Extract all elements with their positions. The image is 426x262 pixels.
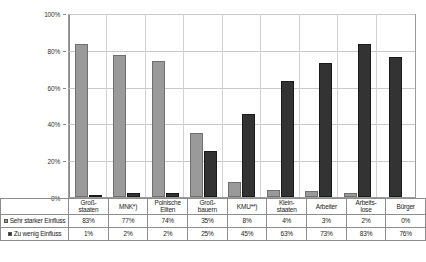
bar-series-1: [344, 193, 357, 197]
bar-series-2: [204, 151, 217, 197]
table-value-cell: 2%: [346, 214, 386, 227]
table-category-header: Klein-staaten: [267, 199, 307, 215]
bar-series-1: [113, 55, 126, 197]
bar-group: [146, 14, 184, 197]
y-axis-tick-mark: [63, 161, 66, 162]
table-corner-cell: [1, 199, 69, 215]
table-value-cell: 4%: [267, 214, 307, 227]
table-category-header: Arbeiter: [307, 199, 347, 215]
y-axis-tick-mark: [63, 51, 66, 52]
bar-group: [184, 14, 222, 197]
y-axis: 0%20%40%60%80%100%: [0, 0, 68, 198]
bar-group: [107, 14, 145, 197]
table-value-cell: 35%: [188, 214, 228, 227]
plot-area: [68, 14, 416, 198]
bar-series-2: [389, 57, 402, 197]
table-value-cell: 45%: [227, 227, 267, 240]
table-value-cell: 77%: [108, 214, 148, 227]
table-category-header: MNK*): [108, 199, 148, 215]
bar-series-1: [152, 61, 165, 197]
bar-group: [223, 14, 261, 197]
table-value-cell: 1%: [69, 227, 109, 240]
table-row-series-1: Sehr starker Einfluss 83%77%74%35%8%4%3%…: [1, 214, 426, 227]
table-value-cell: 83%: [346, 227, 386, 240]
y-axis-tick-label: 20%: [48, 158, 60, 165]
bar-group: [377, 14, 415, 197]
legend-swatch-icon-series-1: [4, 219, 8, 223]
legend-item-series-1: Sehr starker Einfluss: [1, 214, 69, 227]
table-category-header: Groß-bauern: [188, 199, 228, 215]
legend-swatch-icon-series-2: [8, 232, 12, 236]
table-value-cell: 8%: [227, 214, 267, 227]
legend-item-series-2: Zu wenig Einfluss: [1, 227, 69, 240]
y-axis-tick-label: 40%: [48, 121, 60, 128]
table-category-header: KMU**): [227, 199, 267, 215]
table-value-cell: 0%: [386, 214, 426, 227]
table-row-series-2: Zu wenig Einfluss 1%2%2%25%45%63%73%83%7…: [1, 227, 426, 240]
bar-series-1: [228, 182, 241, 197]
legend-label-series-2: Zu wenig Einfluss: [14, 230, 62, 237]
data-table: Groß-staatenMNK*)PolnischeElitenGroß-bau…: [0, 198, 426, 241]
bar-series-1: [190, 133, 203, 197]
table-category-header: Groß-staaten: [69, 199, 109, 215]
bar-series-2: [242, 114, 255, 197]
table-value-cell: 2%: [108, 227, 148, 240]
table-value-cell: 83%: [69, 214, 109, 227]
table-row-categories: Groß-staatenMNK*)PolnischeElitenGroß-bau…: [1, 199, 426, 215]
bar-group: [300, 14, 338, 197]
bar-series-2: [281, 81, 294, 197]
bar-groups: [69, 14, 415, 197]
bar-series-1: [305, 191, 318, 197]
bar-series-2: [89, 195, 102, 197]
y-axis-tick-mark: [63, 14, 66, 15]
y-axis-tick-label: 100%: [44, 11, 60, 18]
legend-label-series-1: Sehr starker Einfluss: [10, 217, 66, 224]
bar-series-2: [358, 44, 371, 197]
table-value-cell: 3%: [307, 214, 347, 227]
bar-series-1: [75, 44, 88, 197]
y-axis-tick-label: 60%: [48, 84, 60, 91]
table-value-cell: 73%: [307, 227, 347, 240]
table-value-cell: 74%: [148, 214, 188, 227]
table-value-cell: 76%: [386, 227, 426, 240]
table-category-header: Bürger: [386, 199, 426, 215]
y-axis-tick-mark: [63, 88, 66, 89]
bar-group: [261, 14, 299, 197]
bar-series-2: [127, 193, 140, 197]
table-value-cell: 2%: [148, 227, 188, 240]
table-value-cell: 63%: [267, 227, 307, 240]
bar-group: [69, 14, 107, 197]
chart-container: 0%20%40%60%80%100% Groß-staatenMNK*)Poln…: [0, 0, 426, 262]
bar-series-1: [267, 190, 280, 197]
bar-series-2: [166, 193, 179, 197]
bar-group: [338, 14, 376, 197]
y-axis-tick-label: 80%: [48, 47, 60, 54]
y-axis-tick-mark: [63, 124, 66, 125]
table-value-cell: 25%: [188, 227, 228, 240]
bar-series-2: [319, 63, 332, 197]
table-category-header: Arbeits-lose: [346, 199, 386, 215]
table-category-header: PolnischeEliten: [148, 199, 188, 215]
